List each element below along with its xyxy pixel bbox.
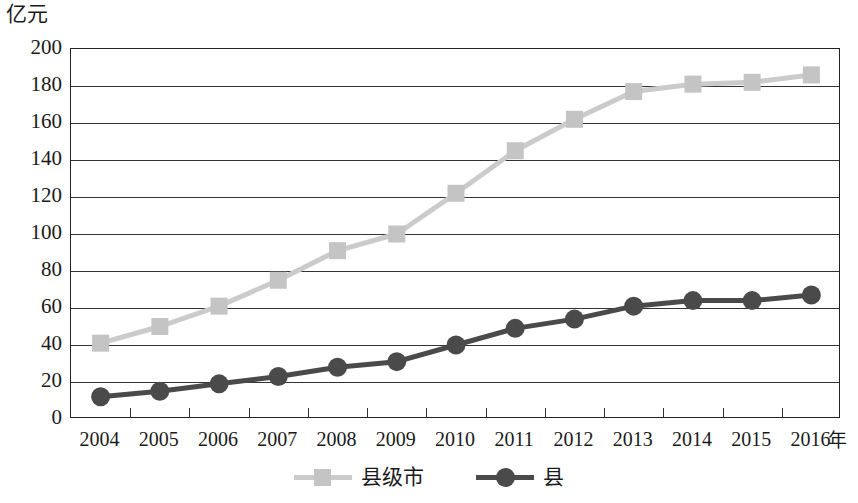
x-axis-tick-label: 2011 [495, 428, 534, 450]
y-axis-tick-label: 140 [0, 148, 62, 169]
x-axis-tick-label: 2005 [139, 428, 179, 450]
x-axis-tick-label: 2013 [613, 428, 653, 450]
x-axis-tick-label: 2009 [376, 428, 416, 450]
x-axis-unit-label: 年 [828, 430, 847, 452]
data-point-marker-square [388, 226, 405, 243]
data-point-marker-square [684, 76, 701, 93]
legend-item-county-level-city: 县级市 [294, 466, 424, 488]
legend-square-marker-icon [294, 466, 352, 488]
x-axis-tick-label: 2012 [553, 428, 593, 450]
x-axis-tick-label: 2004 [80, 428, 120, 450]
data-point-marker-square [803, 66, 820, 83]
data-point-marker-square [448, 185, 465, 202]
data-point-marker-square [625, 83, 642, 100]
x-axis-tick-label: 2014 [672, 428, 712, 450]
series-county [91, 286, 821, 407]
x-axis-tick-label: 2008 [317, 428, 357, 450]
x-axis-tick-label: 2015 [731, 428, 771, 450]
data-point-marker-circle [210, 374, 229, 393]
data-point-marker-circle [565, 310, 584, 329]
line-chart-figure: 亿元 200180160140120100806040200 200420052… [0, 0, 858, 503]
data-point-marker-circle [683, 291, 702, 310]
legend-item-county: 县 [476, 466, 564, 488]
data-point-marker-circle [743, 291, 762, 310]
data-point-marker-circle [624, 297, 643, 316]
y-axis-tick-label: 200 [0, 37, 62, 58]
data-point-marker-circle [91, 387, 110, 406]
x-axis-tick-label: 2016 [790, 428, 830, 450]
data-point-marker-square [92, 335, 109, 352]
data-point-marker-circle [328, 358, 347, 377]
y-axis-tick-label: 0 [0, 407, 62, 428]
y-axis-tick-label: 180 [0, 74, 62, 95]
y-axis-tick-label: 100 [0, 222, 62, 243]
x-axis-tick-label: 2007 [257, 428, 297, 450]
plot-area [70, 48, 840, 418]
data-point-marker-square [151, 318, 168, 335]
data-point-marker-circle [387, 352, 406, 371]
series-plot [71, 49, 841, 419]
data-point-marker-square [566, 111, 583, 128]
series-county-level-city [92, 66, 820, 351]
data-point-marker-square [270, 272, 287, 289]
y-axis-tick-label: 20 [0, 370, 62, 391]
y-axis-tick-label: 80 [0, 259, 62, 280]
data-point-marker-square [744, 74, 761, 91]
data-point-marker-circle [269, 367, 288, 386]
data-point-marker-circle [506, 319, 525, 338]
data-point-marker-circle [802, 286, 821, 305]
legend-label-county: 县 [543, 466, 564, 488]
y-axis-tick-label: 120 [0, 185, 62, 206]
data-point-marker-square [329, 242, 346, 259]
x-axis-tick-label: 2006 [198, 428, 238, 450]
data-point-marker-circle [447, 336, 466, 355]
chart-legend: 县级市 县 [0, 466, 858, 488]
legend-circle-marker-icon [476, 466, 534, 488]
data-point-marker-circle [150, 382, 169, 401]
legend-label-county-level-city: 县级市 [361, 466, 424, 488]
y-axis-tick-label: 60 [0, 296, 62, 317]
y-axis-tick-label: 160 [0, 111, 62, 132]
x-axis-tick-label: 2010 [435, 428, 475, 450]
data-point-marker-square [211, 298, 228, 315]
y-axis-unit-label: 亿元 [6, 2, 48, 26]
data-point-marker-square [507, 142, 524, 159]
y-axis-tick-label: 40 [0, 333, 62, 354]
